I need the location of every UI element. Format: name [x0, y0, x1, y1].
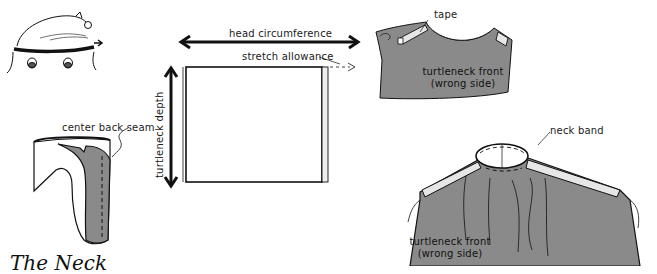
folded-collar-illustration: [34, 128, 128, 244]
turtleneck-depth-label: turtleneck depth: [154, 92, 165, 179]
figure-title: The Neck: [10, 252, 107, 274]
tape-label: tape: [434, 9, 457, 20]
front-tape-body-label-1: turtleneck front: [413, 66, 513, 77]
front-band-body-label-1: turtleneck front: [400, 236, 500, 247]
center-back-seam-label: center back seam: [62, 122, 155, 133]
head-circumference-label: head circumference: [229, 28, 332, 39]
stretch-allowance-label: stretch allowance: [242, 51, 334, 62]
neck-band-label: neck band: [550, 125, 604, 136]
front-tape-body-label-2: (wrong side): [413, 78, 513, 89]
front-band-body-label-2: (wrong side): [400, 248, 500, 259]
head-measure-icon: [7, 12, 102, 73]
